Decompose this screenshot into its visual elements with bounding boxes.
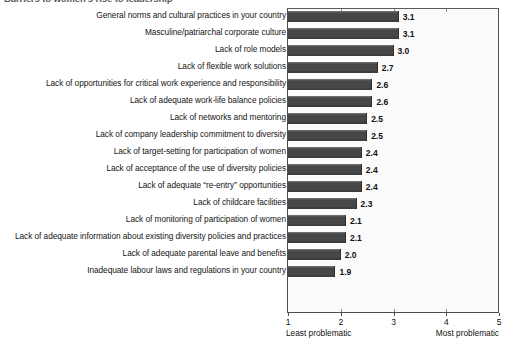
axis-caption-most: Most problematic [436, 328, 499, 338]
x-axis-tick-label: 3 [391, 317, 396, 327]
x-axis-tick [341, 313, 342, 316]
bar [288, 181, 362, 192]
bar-value-label: 2.4 [366, 148, 378, 158]
x-axis-tick-label: 5 [497, 317, 502, 327]
x-axis-tick-label: 2 [338, 317, 343, 327]
bar-value-label: 2.6 [376, 97, 388, 107]
bar [288, 147, 362, 158]
bar-category-label: Lack of company leadership commitment to… [96, 129, 286, 140]
bar-row: Lack of networks and mentoring2.5 [0, 110, 510, 127]
bar-row: Lack of adequate information about exist… [0, 229, 510, 246]
bar-category-label: Lack of acceptance of the use of diversi… [106, 163, 286, 174]
bar-category-label: General norms and cultural practices in … [96, 10, 286, 21]
bar-category-label: Lack of adequate work-life balance polic… [130, 95, 286, 106]
bar-row: Lack of opportunities for critical work … [0, 76, 510, 93]
bar-category-label: Lack of flexible work solutions [178, 61, 286, 72]
bar-value-label: 2.5 [371, 131, 383, 141]
bar [288, 130, 367, 141]
bar [288, 113, 367, 124]
plot-inner-tick [341, 309, 342, 312]
bar [288, 79, 372, 90]
bar [288, 11, 399, 22]
bar-category-label: Lack of monitoring of participation of w… [126, 214, 286, 225]
x-axis: Least problematic Most problematic 12345 [287, 313, 499, 349]
bar-category-label: Lack of role models [215, 44, 286, 55]
bar [288, 266, 335, 277]
plot-inner-tick [446, 309, 447, 312]
bar-value-label: 2.4 [366, 165, 378, 175]
bar-row: Masculine/patriarchal corporate culture3… [0, 25, 510, 42]
bar-category-label: Lack of adequate information about exist… [15, 231, 286, 242]
bar-row: Lack of adequate parental leave and bene… [0, 246, 510, 263]
bar [288, 198, 357, 209]
bar-value-label: 3.0 [398, 46, 410, 56]
bar-row: Lack of acceptance of the use of diversi… [0, 161, 510, 178]
bar-value-label: 3.1 [403, 12, 415, 22]
bar-row: Lack of monitoring of participation of w… [0, 212, 510, 229]
bar-row: Lack of childcare facilities2.3 [0, 195, 510, 212]
bar-row: Lack of company leadership commitment to… [0, 127, 510, 144]
bar [288, 45, 394, 56]
bar-category-label: Lack of childcare facilities [193, 197, 286, 208]
bar [288, 28, 399, 39]
bar [288, 215, 346, 226]
bar-row: Lack of adequate “re-entry” opportunitie… [0, 178, 510, 195]
bar-row: Lack of adequate work-life balance polic… [0, 93, 510, 110]
bar-row: Inadequate labour laws and regulations i… [0, 263, 510, 280]
bar-row: Lack of role models3.0 [0, 42, 510, 59]
bar-value-label: 2.6 [376, 80, 388, 90]
bar-row: General norms and cultural practices in … [0, 8, 510, 25]
bar-row: Lack of target-setting for participation… [0, 144, 510, 161]
bar-category-label: Lack of adequate parental leave and bene… [123, 248, 286, 259]
x-axis-tick [394, 313, 395, 316]
bar-category-label: Lack of networks and mentoring [170, 112, 286, 123]
bar [288, 164, 362, 175]
bar-chart: General norms and cultural practices in … [0, 0, 510, 349]
bar [288, 96, 372, 107]
bar-category-label: Inadequate labour laws and regulations i… [87, 265, 286, 276]
x-axis-tick [499, 313, 500, 316]
x-axis-tick-label: 1 [286, 317, 291, 327]
bar-value-label: 1.9 [339, 267, 351, 277]
bar-value-label: 2.5 [371, 114, 383, 124]
bar-row: Lack of flexible work solutions2.7 [0, 59, 510, 76]
bar-value-label: 2.4 [366, 182, 378, 192]
bar [288, 249, 341, 260]
bar-category-label: Lack of target-setting for participation… [114, 146, 286, 157]
bar-value-label: 2.0 [345, 250, 357, 260]
bar-rows: General norms and cultural practices in … [0, 8, 510, 280]
plot-inner-tick [394, 309, 395, 312]
bar-category-label: Lack of opportunities for critical work … [46, 78, 286, 89]
bar [288, 62, 378, 73]
x-axis-tick-label: 4 [444, 317, 449, 327]
bar-value-label: 2.7 [382, 63, 394, 73]
bar-value-label: 3.1 [403, 29, 415, 39]
bar-value-label: 2.1 [350, 216, 362, 226]
bar-category-label: Lack of adequate “re-entry” opportunitie… [138, 180, 286, 191]
x-axis-tick [288, 313, 289, 316]
x-axis-tick [446, 313, 447, 316]
bar-value-label: 2.1 [350, 233, 362, 243]
bar-value-label: 2.3 [361, 199, 373, 209]
axis-caption-least: Least problematic [286, 328, 352, 338]
bar [288, 232, 346, 243]
bar-category-label: Masculine/patriarchal corporate culture [145, 27, 286, 38]
